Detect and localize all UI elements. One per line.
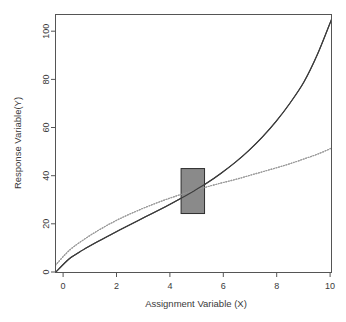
y-tick-label-80: 80 [41,74,51,84]
y-tick-label-0: 0 [41,269,51,274]
x-tick-label-4: 4 [167,281,172,291]
x-axis-title: Assignment Variable (X) [145,298,247,309]
x-tick-label-6: 6 [221,281,226,291]
chart-plot-svg: 0 20 40 60 80 100 Response Variable(Y) 0… [0,0,346,322]
x-tick-label-10: 10 [325,281,335,291]
chart-background [0,0,346,322]
x-tick-label-2: 2 [114,281,119,291]
y-axis-title: Response Variable(Y) [12,97,23,189]
y-tick-label-40: 40 [41,171,51,181]
x-tick-label-8: 8 [274,281,279,291]
chart-container: 0 20 40 60 80 100 Response Variable(Y) 0… [0,0,346,322]
y-tick-label-60: 60 [41,122,51,132]
y-tick-label-20: 20 [41,219,51,229]
x-tick-label-0: 0 [61,281,66,291]
y-tick-label-100: 100 [41,24,51,39]
